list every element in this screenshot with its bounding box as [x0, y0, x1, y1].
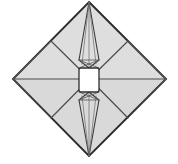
origami-crease-pattern-figure: Origami crease pattern diagram Square sh… [0, 0, 178, 164]
crease-pattern-canvas: Origami crease pattern diagram Square sh… [0, 0, 178, 164]
center-white-panel-fill [79, 68, 99, 92]
